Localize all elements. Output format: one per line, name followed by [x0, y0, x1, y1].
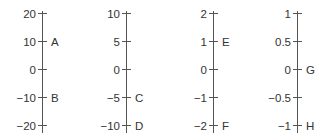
tick: [209, 13, 218, 14]
tick-label: 10: [107, 8, 120, 20]
tick: [38, 13, 47, 14]
point-label-b: B: [51, 92, 59, 104]
point-label-c: C: [135, 92, 143, 104]
number-line-1: 20 10 0 −10 −20 A B: [42, 0, 43, 140]
number-line-2: 10 5 0 −5 −10 C D: [126, 0, 127, 140]
tick-label: −1: [278, 120, 291, 132]
axis-line: [126, 11, 127, 133]
tick: [209, 97, 218, 98]
axis-line: [42, 11, 43, 133]
tick-label: 0: [114, 64, 120, 76]
tick: [209, 69, 218, 70]
tick-label: −10: [100, 120, 120, 132]
tick-label: 1: [201, 36, 207, 48]
tick: [122, 125, 131, 126]
number-line-4: 1 0.5 0 −0.5 −1 G H: [297, 0, 298, 140]
tick: [122, 13, 131, 14]
tick-label: −0.5: [268, 92, 291, 104]
tick: [38, 97, 47, 98]
point-label-h: H: [306, 120, 314, 132]
tick: [122, 69, 131, 70]
point-label-e: E: [222, 36, 230, 48]
tick: [38, 125, 47, 126]
tick-label: −20: [16, 120, 36, 132]
point-label-a: A: [51, 36, 59, 48]
axis-line: [297, 11, 298, 133]
tick: [209, 41, 218, 42]
tick: [293, 69, 302, 70]
tick: [293, 97, 302, 98]
tick: [293, 125, 302, 126]
tick-label: −5: [107, 92, 120, 104]
tick-label: 1: [285, 8, 291, 20]
tick: [209, 125, 218, 126]
axis-line: [213, 11, 214, 133]
tick-label: 2: [201, 8, 207, 20]
tick: [122, 41, 131, 42]
tick-label: 20: [23, 8, 36, 20]
tick: [38, 69, 47, 70]
tick-label: 0: [201, 64, 207, 76]
tick: [293, 41, 302, 42]
tick: [293, 13, 302, 14]
point-label-f: F: [222, 120, 229, 132]
tick-label: 0.5: [275, 36, 291, 48]
tick-label: −1: [194, 92, 207, 104]
tick-label: 5: [114, 36, 120, 48]
tick: [122, 97, 131, 98]
tick-label: −2: [194, 120, 207, 132]
tick-label: 0: [30, 64, 36, 76]
number-line-3: 2 1 0 −1 −2 E F: [213, 0, 214, 140]
point-label-g: G: [306, 64, 315, 76]
tick-label: 10: [23, 36, 36, 48]
tick-label: 0: [285, 64, 291, 76]
tick-label: −10: [16, 92, 36, 104]
tick: [38, 41, 47, 42]
point-label-d: D: [135, 120, 143, 132]
